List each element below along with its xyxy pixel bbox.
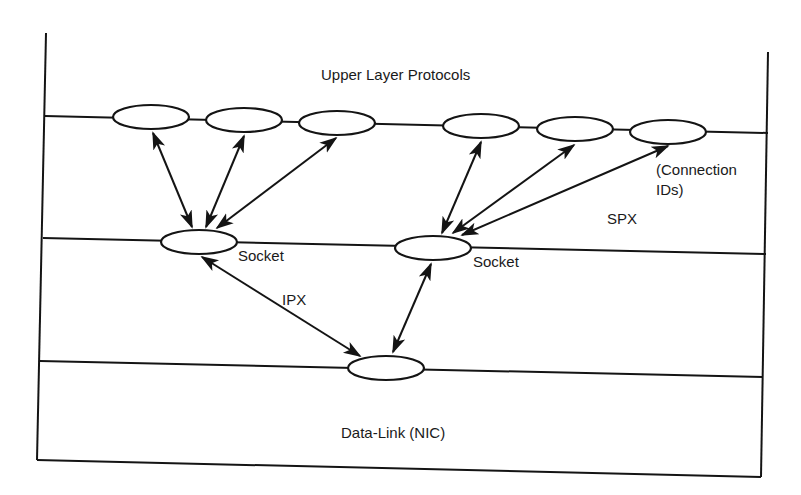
upper-protocol-node-4 <box>443 114 519 138</box>
upper-protocol-node-3 <box>299 111 375 135</box>
arrow-s1-nic-ipx <box>202 257 360 356</box>
upper-layer-label: Upper Layer Protocols <box>321 66 470 83</box>
spx-label: SPX <box>607 210 637 227</box>
upper-protocol-node-2 <box>206 108 282 132</box>
arrow-u3-s1 <box>217 138 336 228</box>
right-border <box>761 52 768 477</box>
socket-node-right <box>395 236 471 260</box>
nic-node <box>348 356 424 380</box>
arrow-u2-s1 <box>206 136 244 227</box>
ipx-label: IPX <box>282 291 306 308</box>
socket-node-left <box>161 230 237 254</box>
upper-protocol-node-6 <box>630 120 706 144</box>
upper-protocol-node-5 <box>537 117 613 141</box>
socket-left-label: Socket <box>238 247 285 264</box>
connection-ids-label-line2: IDs) <box>656 181 684 198</box>
protocol-stack-diagram: Upper Layer Protocols Socket Socket (Con… <box>0 0 801 495</box>
left-border <box>37 33 46 460</box>
connection-ids-label-line1: (Connection <box>656 161 737 178</box>
datalink-label: Data-Link (NIC) <box>341 424 445 441</box>
arrow-u6-s2 <box>462 146 668 235</box>
arrow-u4-s2 <box>442 142 481 233</box>
bottom-border <box>37 460 761 477</box>
arrow-u1-s1 <box>153 133 192 227</box>
arrow-s2-nic <box>393 264 431 352</box>
socket-right-label: Socket <box>473 253 520 270</box>
upper-protocol-node-1 <box>113 105 189 129</box>
arrow-u5-s2 <box>453 145 574 233</box>
upper-to-socket-left-arrows <box>153 133 336 228</box>
